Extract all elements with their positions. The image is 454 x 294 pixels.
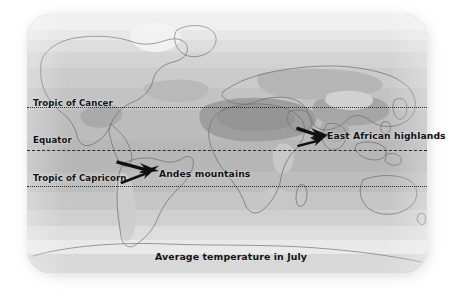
label-east-african-highlands: East African highlands [327, 130, 446, 141]
label-tropic-of-capricorn: Tropic of Capricorn [33, 173, 127, 183]
label-tropic-of-cancer: Tropic of Cancer [33, 98, 113, 108]
map-plate [27, 14, 427, 273]
label-equator: Equator [33, 135, 72, 145]
label-andes-mountains: Andes mountains [159, 168, 250, 179]
map-caption: Average temperature in July [155, 251, 307, 262]
world-temperature-map-figure: Tropic of Cancer Equator Tropic of Capri… [0, 0, 454, 294]
map-raster [27, 14, 427, 273]
